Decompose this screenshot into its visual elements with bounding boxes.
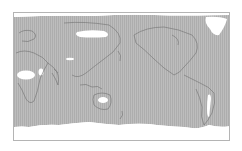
siberia-patch <box>76 30 108 37</box>
world-map <box>13 12 230 141</box>
map-canvas <box>14 13 230 141</box>
australia-patch <box>98 97 108 103</box>
sahara-patch <box>17 71 35 80</box>
tibet-patch <box>66 58 74 60</box>
